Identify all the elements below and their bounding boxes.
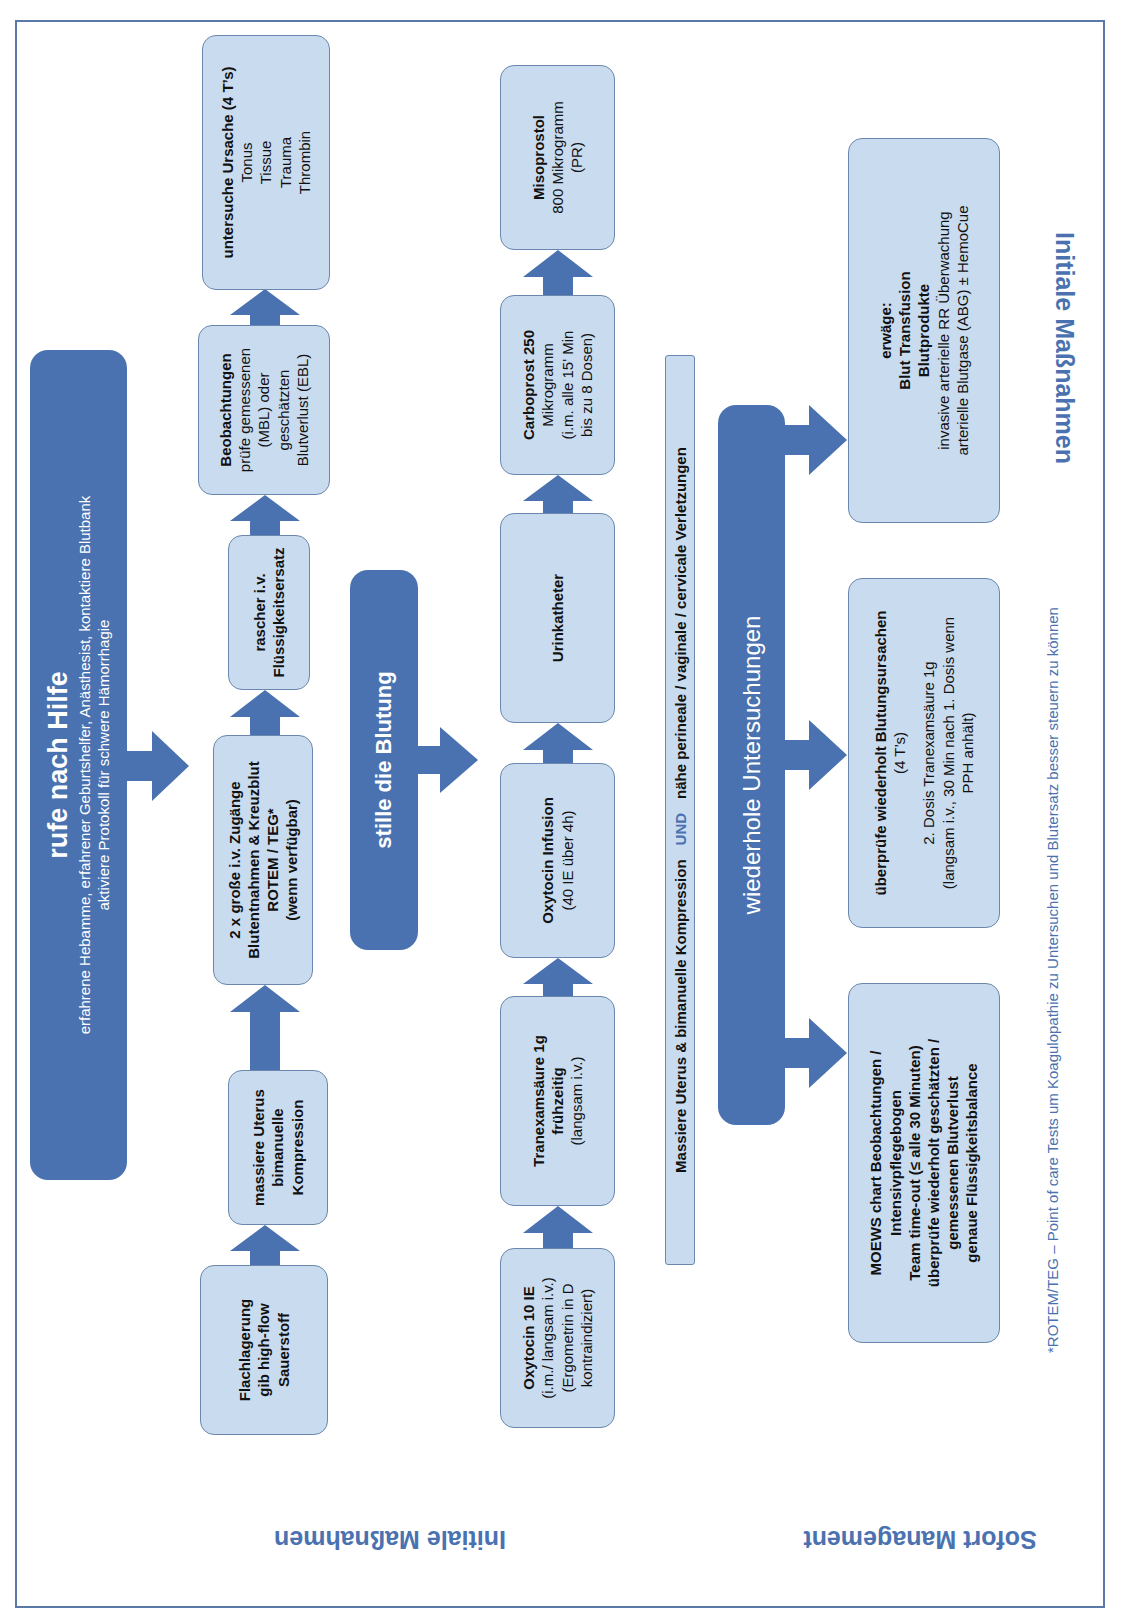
section-label-immediate-management-text: Sofort Management (803, 1526, 1036, 1555)
step-text: (i.m./ langsam i.v.) (538, 1277, 557, 1398)
arrow-right-icon (523, 250, 593, 295)
step-text: überprüfe wiederholt Blutungsursachen (871, 610, 890, 895)
step-iv-access: 2 x große i.v. Zugänge Blutentnahmen & K… (213, 735, 313, 985)
step-tranexamic-acid: Tranexamsäure 1g frühzeitig (langsam i.v… (500, 996, 615, 1206)
step-misoprostol: Misoprostol 800 Mikrogramm (PR) (500, 65, 615, 250)
step-text: geschätzten (274, 370, 293, 451)
call-for-help-banner: rufe nach Hilfe erfahrene Hebamme, erfah… (30, 350, 127, 1180)
call-for-help-title: rufe nach Hilfe (43, 671, 74, 859)
step-text: gib high-flow (254, 1303, 273, 1396)
arrow-right-icon (230, 495, 300, 535)
section-label-initial-measures: Initiale Maßnahmen (220, 1520, 560, 1560)
step-text: Beobachtungen (216, 353, 235, 466)
step-text: genaue Flüssigkeitsbalance (962, 1063, 981, 1262)
arrow-right-icon (230, 289, 300, 325)
step-text: (4 T’s) (890, 732, 909, 774)
step-text: 2 x große i.v. Zugänge (225, 781, 244, 938)
arrow-right-icon (523, 475, 593, 513)
footnote-text: *ROTEM/TEG – Point of care Tests um Koag… (1044, 607, 1061, 1353)
step-text: untersuche Ursache (4 T’s) (218, 67, 237, 259)
step-text: (i.m. alle 15' Min (558, 331, 577, 440)
step-text: prüfe gemessenen (235, 348, 254, 472)
step-text: Sauerstoff (274, 1313, 293, 1387)
arrow-right-icon (230, 690, 300, 735)
arrow-down-icon (418, 727, 478, 793)
arrow-down-icon (785, 1018, 847, 1088)
step-text: (langsam i.v.) (567, 1057, 586, 1146)
step-text: gemessenen Blutverlust (943, 1076, 962, 1249)
step-text: überprüfe wiederholt geschätzten / (924, 1039, 943, 1287)
step-positioning-oxygen: Flachlagerung gib high-flow Sauerstoff (200, 1265, 328, 1435)
step-text: Flüssigkeitsersatz (269, 547, 288, 677)
compression-text: Massiere Uterus & bimanuelle Kompression (672, 859, 689, 1172)
flowchart-canvas: Initiale Maßnahmen rufe nach Hilfe erfah… (0, 0, 1121, 1623)
step-fluid-replacement: rascher i.v. Flüssigkeitsersatz (228, 535, 310, 690)
footnote: *ROTEM/TEG – Point of care Tests um Koag… (1040, 253, 1064, 1353)
und-connector: UND (672, 813, 689, 846)
step-text: Blut Transfusion (895, 271, 914, 389)
section-label-initial-measures-text: Initiale Maßnahmen (274, 1526, 506, 1555)
step-text: massiere Uterus (249, 1089, 268, 1206)
step-text: kontraindiziert) (577, 1289, 596, 1387)
step-text: Intensivpflegebogen (886, 1090, 905, 1236)
step-carboprost: Carboprost 250 Mikrogramm (i.m. alle 15'… (500, 295, 615, 475)
step-text: (40 IE über 4h) (558, 810, 577, 910)
step-text: Tonus (237, 142, 256, 182)
call-for-help-line1: erfahrene Hebamme, erfahrener Geburtshel… (75, 496, 95, 1035)
step-text: Blutprodukte (914, 284, 933, 377)
compression-repair-bar: Massiere Uterus & bimanuelle Kompression… (665, 355, 695, 1265)
stop-bleeding-banner: stille die Blutung (350, 570, 418, 950)
call-for-help-line2: aktiviere Protokoll für schwere Hämorrha… (94, 620, 114, 911)
step-observations: Beobachtungen prüfe gemessenen (MBL) ode… (198, 325, 330, 495)
step-text: arterielle Blutgase (ABG) ± HemoCue (953, 206, 972, 456)
repeat-exams-banner: wiederhole Untersuchungen (718, 405, 785, 1125)
step-oxytocin-infusion: Oxytocin Infusion (40 IE über 4h) (500, 763, 615, 958)
step-text: Urinkatheter (548, 574, 567, 662)
step-text: Oxytocin 10 IE (519, 1286, 538, 1389)
repeat-exams-title: wiederhole Untersuchungen (738, 616, 766, 915)
step-text: Flachlagerung (235, 1299, 254, 1402)
step-text: (PR) (567, 142, 586, 173)
step-text: Carboprost 250 (519, 330, 538, 440)
step-text: MOEWS chart Beobachtungen / (866, 1051, 885, 1276)
arrow-down-icon (785, 405, 847, 475)
step-text: (Ergometrin in D (558, 1283, 577, 1392)
step-text: Misoprostol (529, 115, 548, 200)
step-text: 2. Dosis Tranexamsäure 1g (919, 661, 938, 844)
step-text: Kompression (288, 1100, 307, 1196)
step-text: Tissue (256, 141, 275, 185)
step-text: (MBL) oder (254, 372, 273, 447)
step-text: Thrombin (295, 131, 314, 194)
step-text: bimanuelle (268, 1108, 287, 1186)
step-text: Team time-out (≤ alle 30 Minuten) (905, 1045, 924, 1280)
step-urinary-catheter: Urinkatheter (500, 513, 615, 723)
step-text: erwäge: (876, 302, 895, 359)
section-label-immediate-management: Sofort Management (770, 1520, 1070, 1560)
step-text: frühzeitig (548, 1067, 567, 1135)
step-text: Blutverlust (EBL) (293, 354, 312, 467)
arrow-right-icon (230, 985, 300, 1070)
stop-bleeding-title: stille die Blutung (371, 671, 397, 848)
step-text: PPH anhält) (958, 713, 977, 794)
repair-text: nähe perineale / vaginale / cervicale Ve… (672, 447, 689, 799)
step-uterine-massage: massiere Uterus bimanuelle Kompression (228, 1070, 328, 1225)
step-text: (wenn verfügbar) (282, 799, 301, 921)
arrow-right-icon (523, 1206, 593, 1248)
step-text: (langsam i.v., 30 Min nach 1. Dosis wenn (939, 617, 958, 889)
step-text: Tranexamsäure 1g (529, 1035, 548, 1167)
step-text: invasive arterielle RR Überwachung (934, 211, 953, 449)
step-text: Oxytocin Infusion (538, 797, 557, 924)
arrow-right-icon (230, 1225, 300, 1265)
step-text: 800 Mikrogramm (548, 101, 567, 214)
arrow-right-icon (523, 723, 593, 763)
step-text: rascher i.v. (250, 573, 269, 651)
arrow-down-icon (127, 731, 189, 801)
step-oxytocin-10: Oxytocin 10 IE (i.m./ langsam i.v.) (Erg… (500, 1248, 615, 1428)
step-text: Trauma (276, 137, 295, 188)
step-monitoring: MOEWS chart Beobachtungen / Intensivpfle… (848, 983, 1000, 1343)
step-text: ROTEM / TEG* (263, 808, 282, 911)
arrow-right-icon (523, 958, 593, 996)
step-investigate-cause: untersuche Ursache (4 T’s) Tonus Tissue … (202, 35, 330, 290)
step-text: Blutentnahmen & Kreuzblut (244, 761, 263, 959)
step-recheck-causes: überprüfe wiederholt Blutungsursachen (4… (848, 578, 1000, 928)
